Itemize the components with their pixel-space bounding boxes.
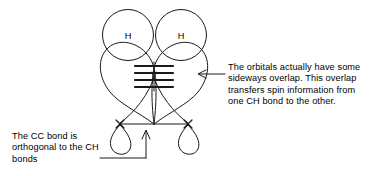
orbital-lobe-left-large <box>100 42 156 124</box>
hydrogen-label-right: H <box>178 31 185 41</box>
annotation-right-text: The orbitals actually have some sideways… <box>228 62 372 107</box>
orbital-lobe-left-small <box>110 125 130 154</box>
hydrogen-label-left: H <box>125 31 132 41</box>
orbital-diagram-figure: H H The orbitals actually have some side… <box>0 0 374 176</box>
orbital-lobe-right-large <box>152 42 208 124</box>
annotation-right-leader <box>198 70 225 78</box>
annotation-left-text: The CC bond is orthogonal to the CH bond… <box>12 131 108 165</box>
orbital-lobe-right-small <box>178 125 198 154</box>
